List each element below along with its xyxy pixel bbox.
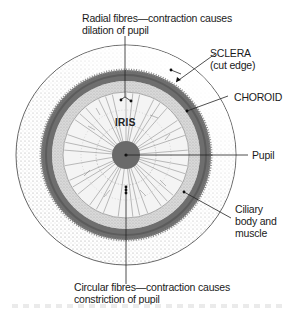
ciliary-label-line1: Ciliary [235, 203, 263, 215]
ciliary-label-line3: muscle [235, 227, 267, 239]
sclera-sublabel: (cut edge) [210, 59, 255, 71]
radial-fibres-label-line2: dilation of pupil [82, 24, 149, 36]
eye-iris-diagram: Radial fibres—contraction causes dilatio… [0, 0, 289, 311]
ciliary-label-line2: body and [235, 215, 277, 227]
choroid-label: CHOROID [234, 91, 282, 103]
sclera-label: SCLERA [210, 47, 251, 59]
circular-fibres-label-line1: Circular fibres—contraction causes [74, 281, 230, 293]
radial-fibres-label-line1: Radial fibres—contraction causes [82, 12, 232, 24]
iris-label: IRIS [115, 117, 136, 128]
cut-off-caption [12, 304, 282, 308]
pupil-label: Pupil [252, 149, 274, 161]
